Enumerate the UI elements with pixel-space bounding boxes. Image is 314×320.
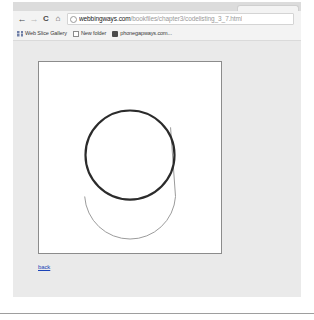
back-link[interactable]: back — [38, 263, 50, 271]
home-button[interactable]: ⌂ — [52, 13, 64, 25]
reload-button[interactable]: C — [40, 13, 52, 25]
forward-button[interactable]: → — [28, 13, 40, 25]
tab-strip — [13, 2, 301, 11]
address-bar[interactable]: webbingways.com/bookfiles/chapter3/codel… — [67, 13, 294, 25]
browser-toolbar: ← → C ⌂ webbingways.com/bookfiles/chapte… — [13, 11, 301, 27]
bookmarks-bar: Web Slice Gallery New folder phonegapway… — [13, 27, 301, 41]
bottom-divider — [0, 313, 314, 314]
page-viewport: back — [13, 41, 301, 297]
url-host: webbingways.com — [79, 15, 131, 22]
bookmark-label: New folder — [81, 30, 106, 37]
main-circle — [85, 111, 174, 200]
html5-canvas-drawing[interactable] — [38, 61, 222, 254]
info-circle-icon[interactable] — [70, 16, 77, 23]
bookmark-label: phonegapways.com... — [120, 30, 172, 37]
folder-icon — [73, 31, 79, 37]
bookmark-icon — [112, 31, 118, 37]
url-text: webbingways.com/bookfiles/chapter3/codel… — [79, 14, 242, 24]
browser-window: ← → C ⌂ webbingways.com/bookfiles/chapte… — [13, 2, 301, 297]
bookmark-label: Web Slice Gallery — [25, 30, 67, 37]
bookmark-phonegapways[interactable]: phonegapways.com... — [112, 30, 172, 37]
lower-arc — [85, 196, 176, 239]
url-path: /bookfiles/chapter3/codelisting_3_7.html — [131, 15, 243, 22]
screenshot-root: ← → C ⌂ webbingways.com/bookfiles/chapte… — [0, 0, 314, 320]
bookmark-new-folder[interactable]: New folder — [73, 30, 106, 37]
back-button[interactable]: ← — [16, 13, 28, 25]
bookmark-web-slice-gallery[interactable]: Web Slice Gallery — [17, 30, 67, 37]
grid-icon — [17, 31, 23, 37]
